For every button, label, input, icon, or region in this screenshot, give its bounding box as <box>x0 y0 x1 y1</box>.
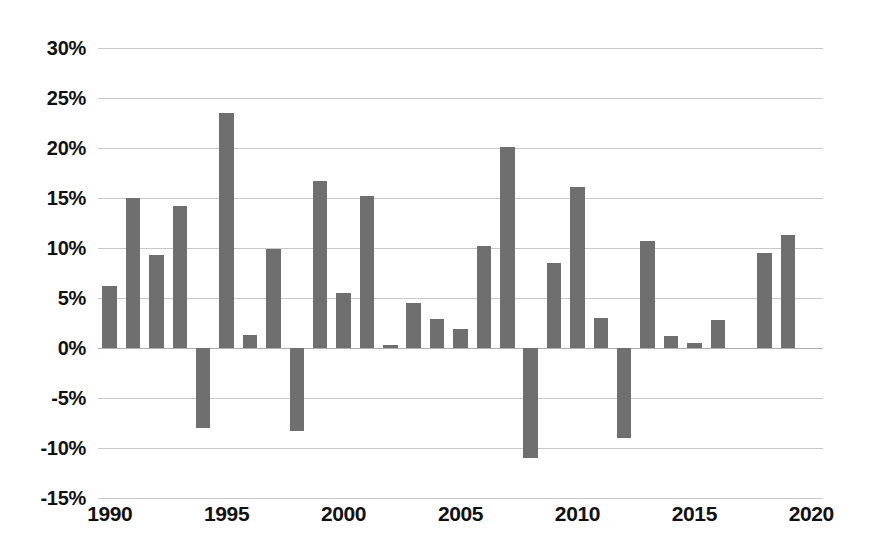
x-tick-label: 2000 <box>321 503 366 524</box>
x-tick-label: 2020 <box>789 503 834 524</box>
x-tick-label: 1995 <box>204 503 249 524</box>
x-tick-label: 2010 <box>555 503 600 524</box>
x-tick-label: 1990 <box>87 503 132 524</box>
x-tick-label: 2005 <box>438 503 483 524</box>
x-axis-tick-labels: 1990199520002005201020152020 <box>0 0 887 533</box>
x-tick-label: 2015 <box>672 503 717 524</box>
bar-chart: 30%25%20%15%10%5%0%-5%-10%-15% 199019952… <box>0 0 887 533</box>
